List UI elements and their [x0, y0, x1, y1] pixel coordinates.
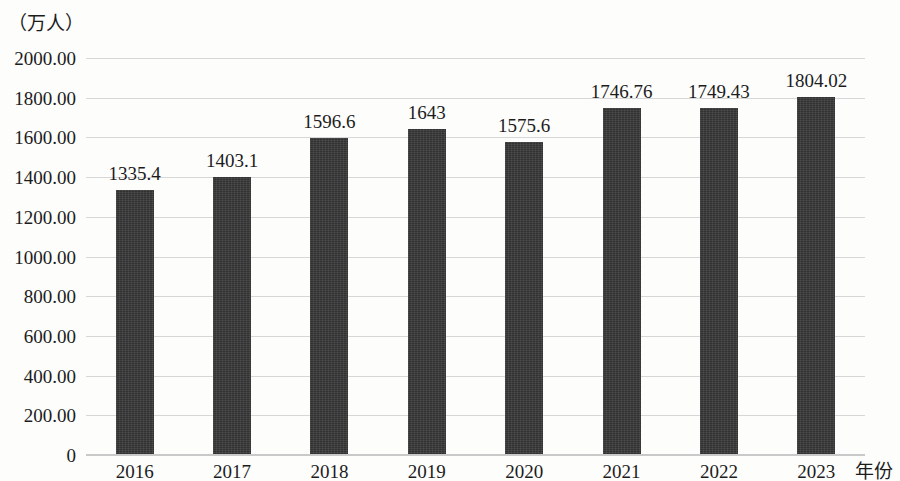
bar-group: 1575.6 [476, 58, 573, 455]
y-axis-tick-label: 1600.00 [0, 128, 76, 147]
bar[interactable] [700, 108, 738, 455]
y-axis-tick-label: 2000.00 [0, 49, 76, 68]
bar-chart: （万人） 0200.00400.00600.00800.001000.00120… [0, 0, 900, 481]
y-axis-tick-label: 1800.00 [0, 89, 76, 108]
y-axis-tick-label: 1000.00 [0, 248, 76, 267]
bar-value-label: 1746.76 [591, 82, 653, 101]
x-axis-tick-label: 2023 [771, 462, 861, 481]
bar[interactable] [408, 129, 446, 455]
y-axis-tick-label: 600.00 [0, 327, 76, 346]
y-axis-tick-label: 200.00 [0, 406, 76, 425]
bar[interactable] [505, 142, 543, 455]
bar-group: 1804.02 [768, 58, 865, 455]
x-axis-tick-label: 2020 [479, 462, 569, 481]
y-axis-tick-label: 800.00 [0, 287, 76, 306]
y-axis-tick-label: 0 [0, 446, 76, 465]
bar-value-label: 1749.43 [688, 82, 750, 101]
plot-area: 1335.41403.11596.616431575.61746.761749.… [86, 58, 865, 455]
y-axis-tick-label: 400.00 [0, 367, 76, 386]
x-axis-tick-label: 2017 [187, 462, 277, 481]
bar-group: 1403.1 [183, 58, 280, 455]
bar-value-label: 1403.1 [206, 151, 258, 170]
x-axis-line [86, 454, 865, 456]
x-axis-tick-label: 2021 [577, 462, 667, 481]
bar[interactable] [213, 177, 251, 456]
x-axis-tick-label: 2018 [284, 462, 374, 481]
bar[interactable] [310, 138, 348, 455]
bar[interactable] [116, 190, 154, 455]
bar-value-label: 1335.4 [109, 164, 161, 183]
bar-value-label: 1596.6 [303, 112, 355, 131]
bar-group: 1746.76 [573, 58, 670, 455]
bar-value-label: 1575.6 [498, 116, 550, 135]
x-axis-tick-label: 2019 [382, 462, 472, 481]
x-axis-tick-label: 2022 [674, 462, 764, 481]
bar-group: 1749.43 [670, 58, 767, 455]
bar-group: 1643 [378, 58, 475, 455]
bar[interactable] [797, 97, 835, 455]
bar-value-label: 1804.02 [785, 71, 847, 90]
y-axis-unit-label: （万人） [8, 8, 84, 35]
bar-group: 1335.4 [86, 58, 183, 455]
x-axis-unit-label: 年份 [855, 462, 893, 481]
y-axis-tick-label: 1200.00 [0, 208, 76, 227]
bar-group: 1596.6 [281, 58, 378, 455]
y-axis-tick-label: 1400.00 [0, 168, 76, 187]
x-axis-tick-label: 2016 [90, 462, 180, 481]
bar[interactable] [603, 108, 641, 455]
bar-value-label: 1643 [408, 103, 446, 122]
